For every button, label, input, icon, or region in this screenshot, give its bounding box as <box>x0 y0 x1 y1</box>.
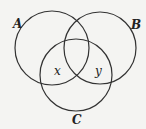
label-a: A <box>12 17 22 31</box>
venn-diagram: A B C x y <box>0 0 146 129</box>
label-c: C <box>72 113 82 127</box>
region-label-y: y <box>94 64 102 78</box>
region-label-x: x <box>54 64 61 78</box>
label-b: B <box>130 18 141 32</box>
